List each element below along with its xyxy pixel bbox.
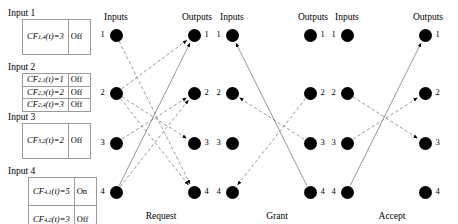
output-node-3[interactable]	[419, 137, 432, 150]
input-group-4: Input 4CF4,1(t)=5OnCF4,2(t)=3Off	[8, 166, 97, 224]
cf-state-badge: Off	[68, 99, 90, 111]
cf-row: CF3,2(t)=2Off	[23, 124, 90, 158]
input-node-2[interactable]	[110, 87, 123, 100]
input-node-1[interactable]	[226, 29, 239, 42]
input-group-title: Input 2	[8, 62, 91, 73]
output-node-label: 3	[436, 137, 440, 147]
input-node-2[interactable]	[341, 87, 354, 100]
panel-caption: Request	[102, 211, 220, 222]
input-node-1[interactable]	[341, 29, 354, 42]
output-node-4[interactable]	[304, 186, 317, 199]
cf-symbol: CF	[33, 186, 44, 198]
cf-symbol: CF	[33, 214, 44, 224]
phase-panel-grant: InputsOutputs11223344Grant	[218, 0, 336, 224]
cf-symbol: CF	[27, 74, 38, 86]
cf-subscript: 4,2	[44, 214, 52, 224]
cf-state-badge: Off	[68, 20, 90, 54]
cf-row: CF1,4(t)=3Off	[23, 20, 90, 54]
input-node-4[interactable]	[341, 186, 354, 199]
edge-2-to-3	[353, 97, 418, 138]
cf-time-arg: (t)	[46, 99, 54, 111]
cf-time-arg: (t)	[46, 31, 54, 43]
cf-subscript: 4,1	[44, 186, 52, 198]
output-node-1[interactable]	[304, 29, 317, 42]
input-group-title: Input 4	[8, 166, 97, 177]
cf-symbol: CF	[27, 87, 38, 99]
cf-expression: CF3,2(t)=2	[23, 124, 68, 158]
input-group-2: Input 2CF2,1(t)=1OffCF2,3(t)=2OffCF2,4(t…	[8, 62, 91, 112]
cf-expression: CF4,2(t)=3	[29, 206, 74, 224]
output-node-2[interactable]	[419, 87, 432, 100]
input-node-4[interactable]	[226, 186, 239, 199]
output-node-2[interactable]	[188, 87, 201, 100]
cf-expression: CF2,4(t)=3	[23, 99, 68, 111]
cf-row: CF2,1(t)=1Off	[23, 74, 90, 86]
cf-expression: CF1,4(t)=3	[23, 20, 68, 54]
cf-state-badge: Off	[74, 206, 96, 224]
input-node-3[interactable]	[110, 137, 123, 150]
cf-symbol: CF	[27, 135, 38, 147]
output-node-1[interactable]	[419, 29, 432, 42]
cf-expression: CF2,3(t)=2	[23, 87, 68, 99]
input-node-label: 2	[332, 87, 336, 97]
cf-time-arg: (t)	[46, 135, 54, 147]
output-node-3[interactable]	[188, 137, 201, 150]
cf-time-arg: (t)	[52, 186, 60, 198]
output-node-label: 1	[321, 29, 325, 39]
cf-expression: CF4,1(t)=5	[29, 178, 74, 205]
edge-4-to-1	[350, 43, 421, 186]
input-node-4[interactable]	[110, 186, 123, 199]
cf-value: =3	[60, 214, 70, 224]
input-node-3[interactable]	[226, 137, 239, 150]
input-node-label: 4	[217, 186, 221, 196]
cf-time-arg: (t)	[52, 214, 60, 224]
cf-row: CF2,4(t)=3Off	[23, 98, 90, 111]
cf-value: =3	[54, 99, 64, 111]
phase-panel-accept: InputsOutputs11223344Accept	[333, 0, 451, 224]
input-group-title: Input 1	[8, 8, 91, 19]
cf-state-badge: Off	[68, 87, 90, 99]
input-node-2[interactable]	[226, 87, 239, 100]
output-node-label: 2	[436, 87, 440, 97]
output-node-label: 4	[321, 186, 325, 196]
cf-symbol: CF	[27, 99, 38, 111]
output-node-label: 2	[321, 87, 325, 97]
output-node-4[interactable]	[419, 186, 432, 199]
output-node-label: 1	[205, 29, 209, 39]
cf-subscript: 2,1	[38, 74, 46, 86]
phase-panel-request: InputsOutputs11223344Request	[102, 0, 220, 224]
cf-subscript: 2,3	[38, 87, 46, 99]
cf-state-badge: Off	[68, 74, 90, 86]
output-node-2[interactable]	[304, 87, 317, 100]
edge-3-to-2	[122, 98, 187, 139]
cf-state-badge: Off	[68, 124, 90, 158]
cf-subscript: 2,4	[38, 99, 46, 111]
input-group-1: Input 1CF1,4(t)=3Off	[8, 8, 91, 55]
cf-state-badge: On	[74, 178, 96, 205]
switch-scheduling-diagram: Input 1CF1,4(t)=3OffInput 2CF2,1(t)=1Off…	[0, 0, 458, 224]
input-node-label: 1	[101, 29, 105, 39]
cf-expression: CF2,1(t)=1	[23, 74, 68, 86]
cf-symbol: CF	[27, 31, 38, 43]
cf-value: =1	[54, 74, 64, 86]
input-node-label: 1	[217, 29, 221, 39]
cf-table: CF2,1(t)=1OffCF2,3(t)=2OffCF2,4(t)=3Off	[22, 73, 91, 112]
output-node-1[interactable]	[188, 29, 201, 42]
edge-1-to-4	[236, 43, 307, 186]
output-node-3[interactable]	[304, 137, 317, 150]
cf-value: =2	[54, 87, 64, 99]
edge-2-to-3	[240, 98, 305, 139]
input-node-label: 2	[101, 87, 105, 97]
edge-1-to-4	[119, 41, 190, 184]
input-node-label: 3	[217, 137, 221, 147]
input-node-3[interactable]	[341, 137, 354, 150]
input-group-title: Input 3	[8, 112, 91, 123]
input-node-1[interactable]	[110, 29, 123, 42]
output-node-4[interactable]	[188, 186, 201, 199]
cf-table: CF1,4(t)=3Off	[22, 19, 91, 55]
cf-subscript: 3,2	[38, 135, 46, 147]
cf-time-arg: (t)	[46, 74, 54, 86]
edge-2-to-1	[122, 40, 187, 88]
output-node-label: 1	[436, 29, 440, 39]
cf-time-arg: (t)	[46, 87, 54, 99]
